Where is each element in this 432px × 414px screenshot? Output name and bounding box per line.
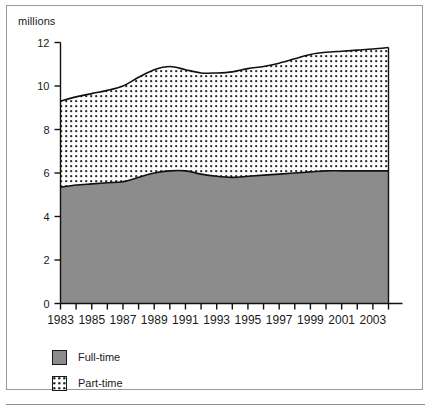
legend-label-part-time: Part-time [78, 377, 123, 389]
y-axis-tick-label: 10 [37, 80, 49, 92]
plot-areas [61, 48, 389, 304]
area-series-part-time [61, 48, 389, 188]
x-axis-tick-label: 1987 [110, 313, 137, 327]
chart-legend: Full-time Part-time [52, 344, 123, 396]
y-axis-tick-label: 4 [43, 211, 49, 223]
x-axis-tick-label: 1991 [172, 313, 199, 327]
y-axis-tick-label: 2 [43, 254, 49, 266]
x-axis-tick-label: 1993 [203, 313, 230, 327]
x-axis-tick-label: 1999 [297, 313, 324, 327]
legend-item-full-time: Full-time [52, 344, 123, 370]
x-axis-tick-labels: 1983198519871989199119931995199719992001… [47, 313, 386, 327]
legend-item-part-time: Part-time [52, 370, 123, 396]
y-axis-tick-labels: 024681012 [37, 37, 49, 310]
x-axis-tick-label: 1989 [141, 313, 168, 327]
dotted-pattern-swatch-icon [52, 376, 67, 391]
y-axis-tick-label: 12 [37, 37, 49, 49]
y-axis-ticks [55, 43, 61, 304]
chart-figure: millions 024681012 198319851 [0, 0, 432, 414]
x-axis-ticks [61, 304, 389, 310]
y-axis-tick-label: 8 [43, 124, 49, 136]
x-axis-tick-label: 2003 [360, 313, 387, 327]
bottom-divider [6, 404, 425, 405]
solid-gray-swatch-icon [52, 350, 67, 365]
x-axis-tick-label: 2001 [328, 313, 355, 327]
x-axis-tick-label: 1985 [78, 313, 105, 327]
x-axis-tick-label: 1983 [47, 313, 74, 327]
x-axis-tick-label: 1995 [235, 313, 262, 327]
y-axis-tick-label: 0 [43, 298, 49, 310]
x-axis-tick-label: 1997 [266, 313, 293, 327]
legend-label-full-time: Full-time [78, 351, 120, 363]
y-axis-tick-label: 6 [43, 167, 49, 179]
area-series-full-time [61, 170, 389, 303]
